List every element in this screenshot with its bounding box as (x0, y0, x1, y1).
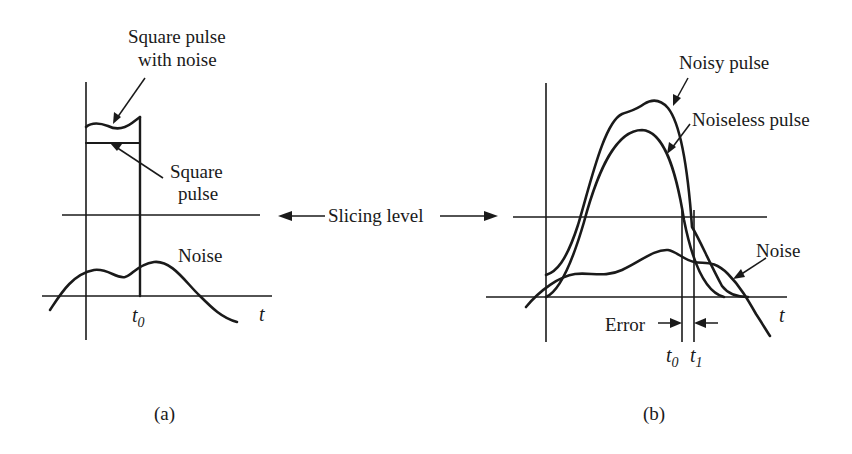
panel-b-noiseless-pulse (546, 130, 724, 297)
arrow-left-icon (278, 211, 292, 221)
pulse-noise-diagram: Square pulse with noise Square pulse Noi… (0, 0, 852, 454)
label-t1-b: t1 (690, 344, 703, 370)
label-t0-a: t0 (132, 304, 145, 330)
arrow-head-icon (673, 94, 681, 106)
label-time-axis-b: t (779, 304, 785, 326)
panel-a-noisy-pulse-top (86, 117, 140, 128)
panel-a-noisy-pulse-pointer (117, 78, 145, 118)
arrow-head-icon (733, 269, 745, 279)
arrow-right-icon (484, 211, 498, 221)
arrow-left-icon (694, 318, 706, 328)
label-slicing-level: Slicing level (328, 205, 424, 226)
panel-a-noise-curve (50, 262, 237, 322)
label-square-pulse-line1: Square (170, 161, 223, 182)
label-time-axis-a: t (259, 303, 265, 325)
caption-b: (b) (643, 403, 665, 425)
label-square-pulse-line2: pulse (178, 183, 218, 204)
caption-a: (a) (154, 403, 175, 425)
arrow-right-icon (670, 318, 682, 328)
label-t0-b: t0 (666, 344, 679, 370)
label-error: Error (605, 314, 646, 335)
panel-a: Square pulse with noise Square pulse Noi… (42, 26, 272, 425)
label-noise-a: Noise (178, 245, 222, 266)
panel-b-noisy-pulse-pointer (677, 78, 688, 98)
slicing-level-annotation: Slicing level (278, 205, 498, 226)
label-square-pulse-with-noise-line1: Square pulse (128, 26, 226, 47)
label-noisy-pulse: Noisy pulse (679, 52, 769, 73)
panel-b: Noisy pulse Noiseless pulse Noise Error … (486, 52, 810, 425)
label-noiseless-pulse: Noiseless pulse (692, 109, 810, 130)
label-noise-b: Noise (756, 240, 800, 261)
label-square-pulse-with-noise-line2: with noise (138, 49, 217, 70)
